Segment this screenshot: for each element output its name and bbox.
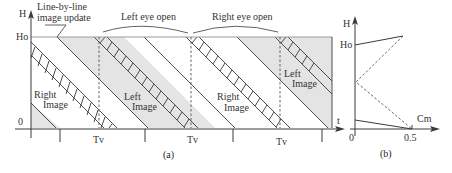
annotation-pointer	[45, 25, 66, 37]
b-y-tick-ho: Ho	[340, 39, 352, 50]
region-label-right-2a: Right	[217, 91, 239, 102]
caption-b: (b)	[380, 148, 392, 160]
panel-b: H Ho Cm 0 0.5 (b)	[340, 16, 440, 160]
b-x-tick-0.5: 0.5	[404, 132, 417, 143]
panel-a: H Ho 0 t Line-by-line image update Left …	[15, 1, 345, 161]
b-x-tick-0: 0	[349, 132, 354, 143]
annotation-line1: Line-by-line	[37, 1, 88, 12]
b-y-axis-label: H	[343, 18, 350, 29]
b-x-axis-label: Cm	[417, 113, 432, 124]
brace-right-eye	[193, 26, 278, 33]
period-label-1: Tv	[93, 134, 104, 145]
period-label-2: Tv	[187, 134, 198, 145]
caption-a: (a)	[163, 149, 174, 161]
period-label-3: Tv	[276, 136, 287, 147]
annotation-line2: image update	[37, 12, 91, 23]
b-dashed	[356, 36, 412, 129]
figure: H Ho 0 t Line-by-line image update Left …	[0, 0, 452, 173]
region-label-left-2b: Image	[292, 78, 318, 89]
y-tick-zero: 0	[18, 116, 23, 127]
x-axis-label: t	[337, 115, 340, 126]
brace-left-eye	[103, 26, 188, 33]
region-label-left-1b: Image	[132, 101, 158, 112]
y-axis-label: H	[19, 8, 26, 19]
y-tick-ho: Ho	[16, 31, 28, 42]
region-label-right-2b: Image	[224, 102, 250, 113]
region-label-right-1b: Image	[43, 99, 69, 110]
brace-label-left-eye: Left eye open	[121, 11, 176, 22]
brace-label-right-eye: Right eye open	[212, 11, 273, 22]
